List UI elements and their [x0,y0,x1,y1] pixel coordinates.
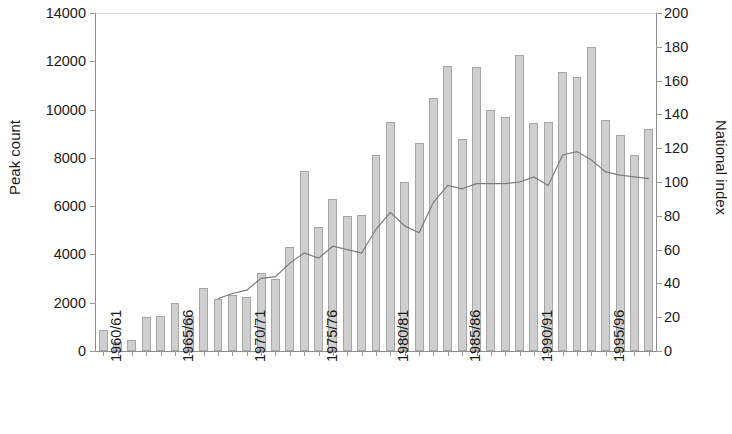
x-axis-tickmark [175,351,176,356]
y-axis-right-tick: 60 [664,242,680,257]
y-axis-right-tickmark [656,114,662,115]
y-axis-left-tickmark [90,110,96,111]
y-axis-right-tick: 0 [664,344,672,359]
y-axis-right-tick: 80 [664,209,680,224]
y-axis-left-tickmark [90,351,96,352]
y-axis-left-tick: 2000 [54,295,86,310]
y-axis-left-tickmark [90,158,96,159]
x-axis-tickmark [161,351,162,356]
x-axis-tickmark [649,351,650,356]
x-axis-tickmark [304,351,305,356]
y-axis-right-tickmark [656,182,662,183]
x-axis-tickmark [204,351,205,356]
y-axis-right-tick: 100 [664,175,688,190]
x-axis-tickmark [419,351,420,356]
y-axis-left-tick: 12000 [46,54,86,69]
x-axis-tickmark [433,351,434,356]
x-axis-tickmark [563,351,564,356]
x-axis-tickmark [448,351,449,356]
x-axis-tickmark [218,351,219,356]
x-axis-tickmark [362,351,363,356]
y-axis-left-tickmark [90,13,96,14]
x-axis-label: 1965/66 [180,310,196,362]
x-axis-tickmark [390,351,391,356]
y-axis-right-tickmark [656,317,662,318]
x-axis-tickmark [520,351,521,356]
x-axis-tickmark [491,351,492,356]
x-axis-tickmark [146,351,147,356]
x-axis-tickmark [534,351,535,356]
y-axis-left-tickmark [90,254,96,255]
y-axis-left-tick: 6000 [54,199,86,214]
y-axis-right-tickmark [656,81,662,82]
x-axis-label: 1960/61 [108,310,124,362]
y-axis-right-tick: 200 [664,6,688,21]
y-axis-right-title: National index [713,120,730,215]
y-axis-left-tick: 4000 [54,247,86,262]
x-axis-tickmark [132,351,133,356]
y-axis-right-tickmark [656,148,662,149]
y-axis-left-tickmark [90,61,96,62]
y-axis-right-tick: 40 [664,276,680,291]
y-axis-left-tick: 8000 [54,151,86,166]
x-axis-label: 1985/86 [467,310,483,362]
x-axis-tickmark [591,351,592,356]
y-axis-right-tick: 140 [664,107,688,122]
x-axis-label: 1970/71 [252,310,268,362]
y-axis-right-tick: 160 [664,73,688,88]
y-axis-left-tickmark [90,206,96,207]
x-axis-tickmark [606,351,607,356]
y-axis-right-tickmark [656,13,662,14]
y-axis-left-tick: 14000 [46,6,86,21]
national-index-line-series [96,13,656,351]
x-axis-tickmark [319,351,320,356]
x-axis-label: 1975/76 [324,310,340,362]
y-axis-right-tick: 120 [664,141,688,156]
y-axis-right-tickmark [656,250,662,251]
national-index-polyline [218,152,649,299]
y-axis-right-tickmark [656,47,662,48]
x-axis-tickmark [232,351,233,356]
chart-container: Peak count National index 02000400060008… [0,0,732,434]
x-axis-tickmark [275,351,276,356]
x-axis-tickmark [577,351,578,356]
y-axis-right-tickmark [656,283,662,284]
x-axis-label: 1995/96 [611,310,627,362]
x-axis-tickmark [462,351,463,356]
y-axis-right-tick-labels: 020406080100120140160180200 [664,0,710,434]
x-axis-tickmark [376,351,377,356]
x-axis-tickmark [505,351,506,356]
x-axis-tickmark [103,351,104,356]
x-axis-tickmark [247,351,248,356]
x-axis-tickmark [634,351,635,356]
y-axis-left-tick: 0 [78,344,86,359]
y-axis-left-tick-labels: 02000400060008000100001200014000 [14,0,86,434]
y-axis-left-tickmark [90,303,96,304]
y-axis-right-tickmark [656,216,662,217]
y-axis-right-tickmark [656,351,662,352]
x-axis-tickmark [290,351,291,356]
y-axis-left-tick: 10000 [46,102,86,117]
y-axis-right-tick: 20 [664,310,680,325]
x-axis-label: 1990/91 [539,310,555,362]
y-axis-right-tick: 180 [664,40,688,55]
x-axis-label: 1980/81 [395,310,411,362]
x-axis-tickmark [347,351,348,356]
